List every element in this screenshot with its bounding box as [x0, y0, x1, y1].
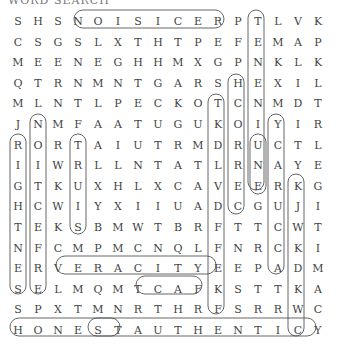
grid-cell[interactable]: Y [288, 156, 308, 177]
grid-cell[interactable]: R [248, 300, 268, 321]
grid-cell[interactable]: M [268, 33, 288, 54]
grid-cell[interactable]: O [28, 321, 48, 342]
grid-cell[interactable]: C [268, 239, 288, 260]
grid-cell[interactable]: K [208, 280, 228, 301]
grid-cell[interactable]: J [8, 115, 28, 136]
grid-cell[interactable]: A [168, 74, 188, 95]
grid-cell[interactable]: H [148, 53, 168, 74]
grid-cell[interactable]: U [188, 115, 208, 136]
grid-cell[interactable]: N [68, 12, 88, 33]
grid-cell[interactable]: R [208, 12, 228, 33]
grid-cell[interactable]: H [128, 53, 148, 74]
grid-cell[interactable]: U [168, 197, 188, 218]
grid-cell[interactable]: F [228, 33, 248, 54]
grid-cell[interactable]: G [148, 74, 168, 95]
grid-cell[interactable]: E [228, 177, 248, 198]
grid-cell[interactable]: M [168, 53, 188, 74]
grid-cell[interactable]: L [308, 74, 328, 95]
grid-cell[interactable]: T [248, 321, 268, 342]
grid-cell[interactable]: T [248, 12, 268, 33]
grid-cell[interactable]: T [28, 177, 48, 198]
grid-cell[interactable]: U [128, 136, 148, 157]
grid-cell[interactable]: C [148, 94, 168, 115]
grid-cell[interactable]: I [108, 136, 128, 157]
grid-cell[interactable]: E [68, 321, 88, 342]
grid-cell[interactable]: X [88, 177, 108, 198]
grid-cell[interactable]: S [8, 280, 28, 301]
grid-cell[interactable]: I [128, 197, 148, 218]
grid-cell[interactable]: G [108, 53, 128, 74]
grid-cell[interactable]: C [228, 197, 248, 218]
grid-cell[interactable]: G [48, 33, 68, 54]
grid-cell[interactable]: A [108, 259, 128, 280]
grid-cell[interactable]: E [48, 53, 68, 74]
grid-cell[interactable]: T [148, 156, 168, 177]
grid-cell[interactable]: K [308, 12, 328, 33]
grid-cell[interactable]: M [268, 94, 288, 115]
grid-cell[interactable]: N [108, 300, 128, 321]
grid-cell[interactable]: P [88, 239, 108, 260]
grid-cell[interactable]: N [248, 94, 268, 115]
grid-cell[interactable]: I [248, 115, 268, 136]
grid-cell[interactable]: R [88, 259, 108, 280]
grid-cell[interactable]: T [288, 136, 308, 157]
grid-cell[interactable]: H [188, 321, 208, 342]
grid-cell[interactable]: X [188, 53, 208, 74]
grid-cell[interactable]: F [188, 280, 208, 301]
grid-cell[interactable]: M [108, 280, 128, 301]
grid-cell[interactable]: T [68, 136, 88, 157]
grid-cell[interactable]: A [188, 197, 208, 218]
grid-cell[interactable]: E [68, 259, 88, 280]
grid-cell[interactable]: P [228, 53, 248, 74]
grid-cell[interactable]: R [28, 259, 48, 280]
grid-cell[interactable]: N [68, 74, 88, 95]
grid-cell[interactable]: F [208, 239, 228, 260]
grid-cell[interactable]: C [8, 33, 28, 54]
grid-cell[interactable]: Q [8, 74, 28, 95]
grid-cell[interactable]: R [228, 156, 248, 177]
grid-cell[interactable]: H [28, 12, 48, 33]
grid-cell[interactable]: H [148, 33, 168, 54]
grid-cell[interactable]: K [288, 280, 308, 301]
grid-cell[interactable]: E [28, 218, 48, 239]
grid-cell[interactable]: R [188, 300, 208, 321]
grid-cell[interactable]: H [108, 177, 128, 198]
grid-cell[interactable]: I [148, 197, 168, 218]
grid-cell[interactable]: T [148, 136, 168, 157]
grid-cell[interactable]: V [288, 12, 308, 33]
grid-cell[interactable]: I [28, 156, 48, 177]
grid-cell[interactable]: W [128, 218, 148, 239]
grid-cell[interactable]: W [288, 300, 308, 321]
grid-cell[interactable]: A [168, 156, 188, 177]
grid-cell[interactable]: R [228, 136, 248, 157]
grid-cell[interactable]: C [168, 177, 188, 198]
grid-cell[interactable]: K [48, 177, 68, 198]
grid-cell[interactable]: A [188, 177, 208, 198]
grid-cell[interactable]: K [168, 94, 188, 115]
grid-cell[interactable]: Q [88, 280, 108, 301]
grid-cell[interactable]: T [168, 33, 188, 54]
grid-cell[interactable]: I [308, 239, 328, 260]
grid-cell[interactable]: D [208, 136, 228, 157]
grid-cell[interactable]: I [288, 115, 308, 136]
grid-cell[interactable]: S [228, 280, 248, 301]
grid-cell[interactable]: R [8, 136, 28, 157]
grid-cell[interactable]: S [88, 321, 108, 342]
grid-cell[interactable]: C [308, 300, 328, 321]
grid-cell[interactable]: L [108, 156, 128, 177]
grid-cell[interactable]: L [128, 177, 148, 198]
grid-cell[interactable]: K [268, 53, 288, 74]
grid-cell[interactable]: M [108, 218, 128, 239]
grid-cell[interactable]: E [208, 33, 228, 54]
grid-cell[interactable]: I [108, 12, 128, 33]
grid-cell[interactable]: V [48, 259, 68, 280]
grid-cell[interactable]: F [28, 239, 48, 260]
grid-cell[interactable]: C [128, 239, 148, 260]
grid-cell[interactable]: R [168, 136, 188, 157]
grid-cell[interactable]: C [28, 197, 48, 218]
grid-cell[interactable]: T [128, 74, 148, 95]
grid-cell[interactable]: X [108, 197, 128, 218]
grid-cell[interactable]: V [208, 177, 228, 198]
grid-cell[interactable]: C [228, 94, 248, 115]
grid-cell[interactable]: J [288, 197, 308, 218]
